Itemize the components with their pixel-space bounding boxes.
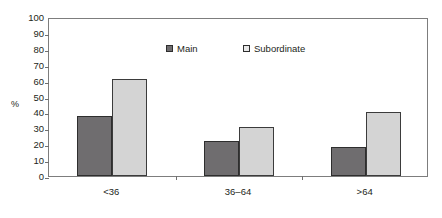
x-axis-category-label: <36 (71, 186, 151, 197)
y-axis-tick-label: 90 (18, 29, 44, 39)
y-axis-tick-label: 70 (18, 61, 44, 71)
y-axis-tick-label: 60 (18, 77, 44, 87)
y-axis-tick-mark (45, 114, 49, 115)
bar-subordinate-0 (112, 79, 147, 176)
y-axis-tick-label: 30 (18, 124, 44, 134)
y-axis-tick-mark (45, 162, 49, 163)
bar-main-0 (77, 116, 112, 176)
y-axis-tick-label: 0 (18, 172, 44, 182)
y-axis-tick-mark (45, 99, 49, 100)
bar-main-1 (204, 141, 239, 176)
y-axis-tick-label: 40 (18, 108, 44, 118)
y-axis-tick-mark (45, 83, 49, 84)
y-axis-tick-label: 80 (18, 45, 44, 55)
y-axis-tick-label: 100 (18, 13, 44, 23)
y-axis-tick-labels: 1009080706050403020100 (14, 0, 44, 218)
y-axis-tick-label: 50 (18, 93, 44, 103)
plot-area (48, 18, 428, 177)
bar-subordinate-1 (239, 127, 274, 176)
y-axis-tick-mark (45, 35, 49, 36)
x-axis-tick-mark (302, 176, 303, 180)
y-axis-tick-mark (45, 146, 49, 147)
x-axis-category-label: 36–64 (198, 186, 278, 197)
bar-main-2 (331, 147, 366, 176)
bar-subordinate-2 (366, 112, 401, 176)
y-axis-tick-mark (45, 130, 49, 131)
x-axis-tick-mark (176, 176, 177, 180)
y-axis-tick-label: 10 (18, 156, 44, 166)
y-axis-tick-mark (45, 51, 49, 52)
y-axis-tick-label: 20 (18, 140, 44, 150)
bar-chart: % 1009080706050403020100 <3636–64>64 Mai… (0, 0, 442, 218)
y-axis-tick-mark (45, 67, 49, 68)
y-axis-tick-mark (45, 178, 49, 179)
x-axis-category-label: >64 (325, 186, 405, 197)
